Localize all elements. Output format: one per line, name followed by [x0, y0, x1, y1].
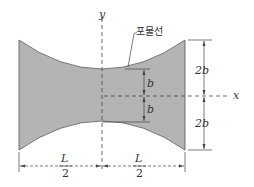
y-axis-label: y — [98, 8, 106, 21]
tapered-plate-diagram: y x 포물선 b b 2b 2b L 2 L 2 — [0, 0, 254, 187]
b-label-bottom: b — [147, 103, 154, 116]
2b-label-top: 2b — [194, 64, 209, 77]
L-right-num: L — [134, 152, 142, 165]
2b-label-bottom: 2b — [194, 117, 209, 130]
L-left-num: L — [60, 152, 68, 165]
b-label-top: b — [147, 77, 154, 90]
L-right-den: 2 — [136, 167, 143, 180]
parabola-leader — [128, 32, 137, 67]
x-axis-label: x — [233, 89, 240, 102]
L-left-den: 2 — [62, 167, 69, 180]
parabola-label: 포물선 — [136, 26, 163, 37]
